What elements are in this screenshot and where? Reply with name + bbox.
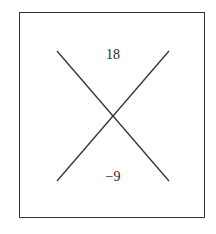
top-value-product: 18	[93, 48, 133, 62]
bottom-value-sum: −9	[93, 170, 133, 184]
x-cross-lines	[0, 0, 216, 234]
